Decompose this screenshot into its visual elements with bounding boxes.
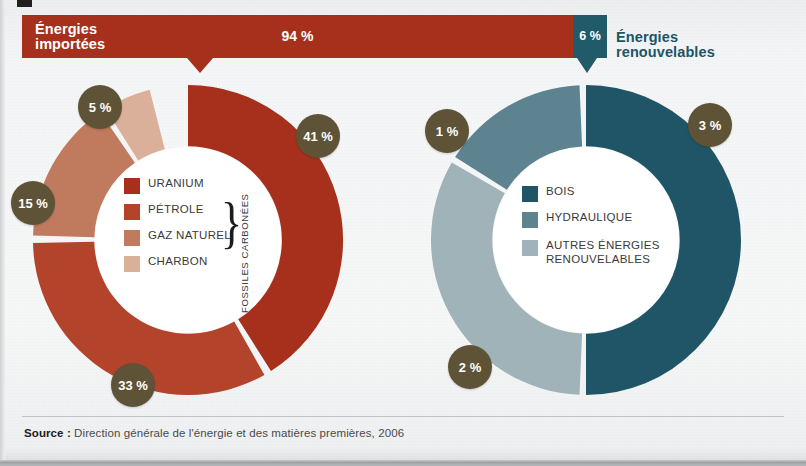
legend-label-charbon: CHARBON: [148, 255, 208, 269]
imported-bar-pointer-icon: [187, 58, 213, 73]
legend-swatch-charbon: [124, 256, 140, 272]
legend-swatch-petrole: [124, 204, 140, 220]
header-bar: Énergies importées 94 % 6 % Énergies ren…: [22, 15, 607, 58]
legend-label-autres-energies: AUTRES ÉNERGIES RENOUVELABLES: [546, 239, 660, 266]
fossil-group-caption: FOSSILES CARBONÉES: [239, 193, 250, 313]
badge-autres-energies-2: 2 %: [448, 345, 492, 389]
badge-gaz-naturel-15: 15 %: [11, 181, 55, 225]
legend-item-charbon: CHARBON: [124, 255, 231, 272]
legend-swatch-autres-energies: [522, 240, 538, 256]
renewable-bar-pointer-icon: [577, 58, 597, 73]
legend-label-hydraulique: HYDRAULIQUE: [546, 211, 632, 225]
badge-value: 3 %: [699, 118, 721, 133]
badge-value: 5 %: [89, 100, 111, 115]
renewable-energy-percent: 6 %: [573, 29, 607, 43]
badge-value: 2 %: [459, 360, 481, 375]
legend-label-petrole: PÉTROLE: [148, 203, 204, 217]
badge-charbon-5: 5 %: [78, 85, 122, 129]
page-bottom-edge: [0, 460, 806, 466]
badge-petrole-33: 33 %: [111, 363, 155, 407]
imported-energy-legend: URANIUM PÉTROLE GAZ NATUREL CHARBON: [124, 177, 231, 281]
legend-label-bois: BOIS: [546, 185, 575, 199]
badge-value: 33 %: [118, 378, 148, 393]
badge-bois-3: 3 %: [688, 103, 732, 147]
legend-swatch-hydraulique: [522, 212, 538, 228]
page-left-edge: [0, 0, 5, 466]
source-note: Source : Direction générale de l'énergie…: [24, 427, 404, 439]
footer-divider: [22, 416, 784, 417]
imported-energy-percent: 94 %: [22, 28, 573, 44]
legend-item-petrole: PÉTROLE: [124, 203, 231, 220]
badge-uranium-41: 41 %: [296, 114, 340, 158]
source-text: Direction générale de l'énergie et des m…: [71, 427, 404, 439]
infographic-page: Énergies importées 94 % 6 % Énergies ren…: [0, 0, 806, 466]
legend-item-uranium: URANIUM: [124, 177, 231, 194]
source-prefix: Source :: [24, 427, 71, 439]
legend-swatch-bois: [522, 186, 538, 202]
badge-value: 1 %: [436, 124, 458, 139]
legend-item-hydraulique: HYDRAULIQUE: [522, 211, 660, 228]
legend-item-gaz-naturel: GAZ NATUREL: [124, 229, 231, 246]
legend-label-uranium: URANIUM: [148, 177, 204, 191]
badge-hydraulique-1: 1 %: [425, 109, 469, 153]
badge-value: 41 %: [303, 129, 333, 144]
legend-label-gaz-naturel: GAZ NATUREL: [148, 229, 231, 243]
legend-swatch-uranium: [124, 178, 140, 194]
corner-mark: [17, 0, 32, 7]
legend-item-bois: BOIS: [522, 185, 660, 202]
renewable-energy-legend: BOIS HYDRAULIQUE AUTRES ÉNERGIES RENOUVE…: [522, 185, 660, 275]
badge-value: 15 %: [18, 196, 48, 211]
legend-swatch-gaz-naturel: [124, 230, 140, 246]
renewable-energy-label: Énergies renouvelables: [616, 30, 715, 60]
legend-item-autres-energies: AUTRES ÉNERGIES RENOUVELABLES: [522, 239, 660, 266]
